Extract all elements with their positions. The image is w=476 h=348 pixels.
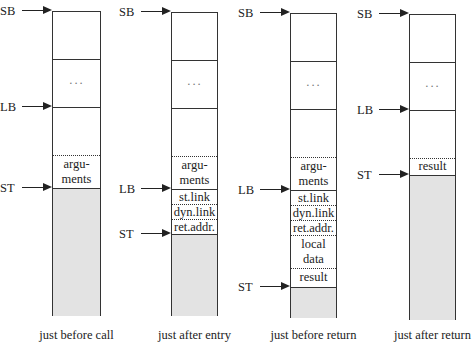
stack-cell: ··· xyxy=(172,60,217,108)
cell-label: argu- xyxy=(172,158,217,173)
pointer-label: SB xyxy=(238,6,253,20)
stack-cell xyxy=(172,12,217,60)
stack-cell: argu-ments xyxy=(172,156,217,189)
arrow-head-icon xyxy=(162,184,171,192)
pointer-label: SB xyxy=(119,5,134,19)
pointer-lb: LB xyxy=(238,183,290,197)
stack-cell: argu-ments xyxy=(291,157,336,190)
column-caption: just after entry xyxy=(135,328,255,343)
pointer-sb: SB xyxy=(357,7,409,21)
stack-cell: ··· xyxy=(291,61,336,109)
arrow-line xyxy=(379,13,400,14)
stack-cell: localdata xyxy=(291,235,336,268)
free-stack-area xyxy=(172,234,217,316)
arrow-line xyxy=(22,10,43,11)
pointer-st: ST xyxy=(238,280,290,294)
cell-label: data xyxy=(291,252,336,267)
cell-label: ments xyxy=(172,173,217,188)
arrow-line xyxy=(379,109,400,110)
pointer-label: SB xyxy=(0,4,15,18)
stack-cell: ··· xyxy=(410,62,455,110)
arrow-head-icon xyxy=(43,6,52,14)
stack-column-2: ···argu-mentsst.linkdyn.linkret.addr. xyxy=(171,12,218,316)
arrow-line xyxy=(260,12,281,13)
stack-cell xyxy=(410,110,455,158)
pointer-label: LB xyxy=(357,103,373,117)
arrow-head-icon xyxy=(43,183,52,191)
pointer-label: SB xyxy=(357,7,372,21)
cell-label: ret.addr. xyxy=(291,221,336,236)
stack-cell: argu-ments xyxy=(53,155,100,188)
stack-column-4: ···result xyxy=(409,14,456,320)
cell-label: ··· xyxy=(291,78,336,93)
cell-label: dyn.link xyxy=(172,205,217,220)
stack-cell: dyn.link xyxy=(291,205,336,220)
free-stack-area xyxy=(291,287,336,318)
arrow-line xyxy=(22,187,43,188)
arrow-head-icon xyxy=(281,185,290,193)
stack-cell: ··· xyxy=(53,59,100,107)
pointer-label: LB xyxy=(119,182,135,196)
stack-cell xyxy=(410,14,455,62)
arrow-line xyxy=(141,11,162,12)
cell-label: ··· xyxy=(410,79,455,94)
pointer-label: ST xyxy=(119,227,134,241)
cell-label: argu- xyxy=(291,159,336,174)
stack-cell: st.link xyxy=(291,190,336,205)
pointer-label: ST xyxy=(238,280,253,294)
arrow-head-icon xyxy=(162,7,171,15)
stack-column-3: ···argu-mentsst.linkdyn.linkret.addr.loc… xyxy=(290,13,337,318)
arrow-line xyxy=(260,286,281,287)
cell-label: st.link xyxy=(172,190,217,205)
stack-cell xyxy=(291,109,336,157)
stack-cell: ret.addr. xyxy=(172,219,217,234)
arrow-line xyxy=(141,188,162,189)
arrow-head-icon xyxy=(43,102,52,110)
arrow-head-icon xyxy=(400,105,409,113)
cell-label: result xyxy=(291,270,336,285)
cell-label: local xyxy=(291,237,336,252)
stack-cell: ret.addr. xyxy=(291,220,336,235)
arrow-head-icon xyxy=(281,282,290,290)
pointer-lb: LB xyxy=(0,100,52,114)
pointer-st: ST xyxy=(119,227,171,241)
cell-label: ret.addr. xyxy=(172,220,217,235)
pointer-sb: SB xyxy=(119,5,171,19)
pointer-label: ST xyxy=(0,181,15,195)
cell-label: ments xyxy=(53,172,100,187)
pointer-lb: LB xyxy=(119,182,171,196)
pointer-sb: SB xyxy=(238,6,290,20)
arrow-line xyxy=(22,106,43,107)
free-stack-area xyxy=(410,175,455,320)
stack-cell xyxy=(53,107,100,155)
stack-cell xyxy=(172,108,217,156)
pointer-st: ST xyxy=(357,168,409,182)
arrow-head-icon xyxy=(400,170,409,178)
stack-cell: dyn.link xyxy=(172,204,217,219)
arrow-head-icon xyxy=(400,9,409,17)
stack-cell: result xyxy=(410,158,455,175)
cell-label: dyn.link xyxy=(291,206,336,221)
stack-cell: st.link xyxy=(172,189,217,204)
pointer-label: LB xyxy=(238,183,254,197)
pointer-label: LB xyxy=(0,100,16,114)
stack-cell: result xyxy=(291,268,336,287)
stack-cell xyxy=(291,13,336,61)
pointer-st: ST xyxy=(0,181,52,195)
cell-label: ··· xyxy=(172,77,217,92)
cell-label: ··· xyxy=(53,76,100,91)
arrow-line xyxy=(141,233,162,234)
arrow-line xyxy=(379,174,400,175)
column-caption: just before call xyxy=(17,328,137,343)
arrow-head-icon xyxy=(162,229,171,237)
arrow-line xyxy=(260,189,281,190)
column-caption: just before return xyxy=(254,328,374,343)
pointer-label: ST xyxy=(357,168,372,182)
cell-label: result xyxy=(410,159,455,174)
arrow-head-icon xyxy=(281,8,290,16)
column-caption: just after return xyxy=(373,328,476,343)
stack-cell xyxy=(53,11,100,59)
pointer-lb: LB xyxy=(357,103,409,117)
stack-column-1: ···argu-ments xyxy=(52,11,101,316)
cell-label: st.link xyxy=(291,191,336,206)
